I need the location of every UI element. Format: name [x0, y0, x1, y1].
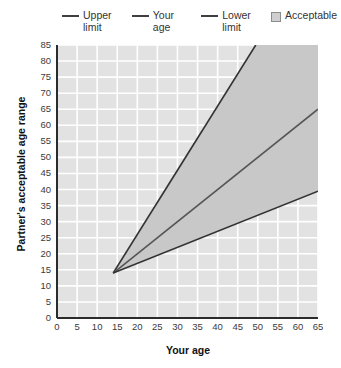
y-tick-label: 35: [27, 201, 51, 211]
x-tick-label: 15: [107, 322, 127, 332]
x-tick-label: 35: [188, 322, 208, 332]
y-tick-label: 25: [27, 233, 51, 243]
y-tick-label: 5: [27, 297, 51, 307]
x-tick-label: 50: [248, 322, 268, 332]
y-tick-label: 85: [27, 40, 51, 50]
y-tick-label: 60: [27, 120, 51, 130]
x-tick-label: 10: [87, 322, 107, 332]
x-tick-label: 55: [268, 322, 288, 332]
y-tick-label: 10: [27, 281, 51, 291]
x-tick-label: 25: [147, 322, 167, 332]
x-tick-label: 5: [67, 322, 87, 332]
x-tick-label: 0: [47, 322, 67, 332]
x-tick-label: 65: [308, 322, 328, 332]
x-axis-tick-labels: 05101520253035404550556065: [0, 322, 341, 336]
x-tick-label: 20: [127, 322, 147, 332]
x-tick-label: 45: [228, 322, 248, 332]
y-tick-label: 70: [27, 88, 51, 98]
chart-figure: Upper limit Your age Lower limit Accepta…: [0, 0, 341, 368]
y-tick-label: 20: [27, 249, 51, 259]
y-tick-label: 40: [27, 185, 51, 195]
y-tick-label: 80: [27, 56, 51, 66]
x-tick-label: 60: [288, 322, 308, 332]
y-tick-label: 75: [27, 72, 51, 82]
x-tick-label: 40: [208, 322, 228, 332]
y-tick-label: 55: [27, 136, 51, 146]
y-tick-label: 50: [27, 152, 51, 162]
y-tick-label: 15: [27, 265, 51, 275]
y-tick-label: 65: [27, 104, 51, 114]
y-axis-tick-labels: 0510152025303540455055606570758085: [25, 0, 51, 368]
x-axis-title: Your age: [57, 344, 319, 356]
y-axis-title: Partner's acceptable age range: [15, 64, 27, 284]
x-tick-label: 30: [167, 322, 187, 332]
y-tick-label: 45: [27, 168, 51, 178]
y-tick-label: 30: [27, 217, 51, 227]
plot-area: [0, 0, 341, 368]
